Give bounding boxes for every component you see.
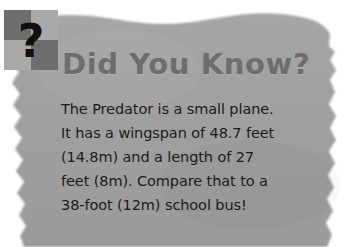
fact-body-text: The Predator is a small plane. It has a …: [61, 97, 329, 217]
did-you-know-card: ? Did You Know? The Predator is a small …: [0, 0, 346, 247]
body-line: The Predator is a small plane.: [61, 97, 329, 121]
question-mark-glyph: ?: [18, 14, 45, 68]
body-line: 38-foot (12m) school bus!: [61, 193, 329, 217]
card-content: ? Did You Know? The Predator is a small …: [0, 0, 346, 247]
body-line: (14.8m) and a length of 27: [61, 145, 329, 169]
question-mark-puzzle-icon: ?: [4, 10, 58, 70]
body-line: feet (8m). Compare that to a: [61, 169, 329, 193]
headline-did-you-know: Did You Know?: [62, 50, 332, 79]
body-line: It has a wingspan of 48.7 feet: [61, 121, 329, 145]
